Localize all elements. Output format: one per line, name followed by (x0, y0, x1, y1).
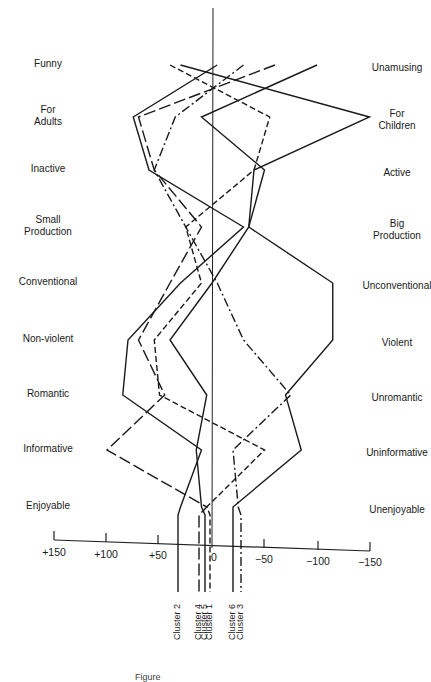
left-label-7: Informative (23, 443, 72, 455)
series-cluster-2 (123, 65, 244, 592)
right-label-6: Unromantic (371, 392, 422, 404)
right-label-2: Active (383, 167, 410, 179)
series-cluster-4 (107, 65, 275, 592)
right-label-7: Uninformative (366, 447, 428, 459)
left-label-2: Inactive (31, 163, 65, 175)
tick-label: +150 (42, 546, 66, 558)
tick-label: 0 (211, 551, 217, 563)
left-label-1: ForAdults (34, 104, 62, 128)
left-label-8: Enjoyable (26, 500, 70, 512)
tick-label: +100 (94, 548, 118, 560)
cluster-label: Cluster 1 (204, 604, 214, 640)
tick-label: −150 (358, 556, 382, 568)
figure-caption: Figure (135, 672, 161, 682)
left-label-3: SmallProduction (24, 214, 72, 238)
series-cluster-5 (170, 65, 317, 592)
left-label-0: Funny (34, 58, 62, 70)
cluster-label: Cluster 3 (235, 604, 245, 640)
right-label-4: Unconventional (363, 280, 431, 292)
left-label-4: Conventional (19, 276, 77, 288)
right-label-8: Unenjoyable (369, 504, 425, 516)
cluster-label: Cluster 2 (172, 604, 182, 640)
right-label-0: Unamusing (372, 62, 423, 74)
left-label-6: Romantic (27, 388, 69, 400)
right-label-3: BigProduction (373, 218, 421, 242)
right-label-5: Violent (382, 337, 412, 349)
tick-label: −50 (255, 553, 273, 565)
series-cluster-3 (154, 65, 291, 592)
tick-label: +50 (149, 549, 167, 561)
left-label-5: Non-violent (23, 333, 74, 345)
tick-label: −100 (306, 555, 330, 567)
right-label-1: ForChildren (378, 108, 415, 132)
